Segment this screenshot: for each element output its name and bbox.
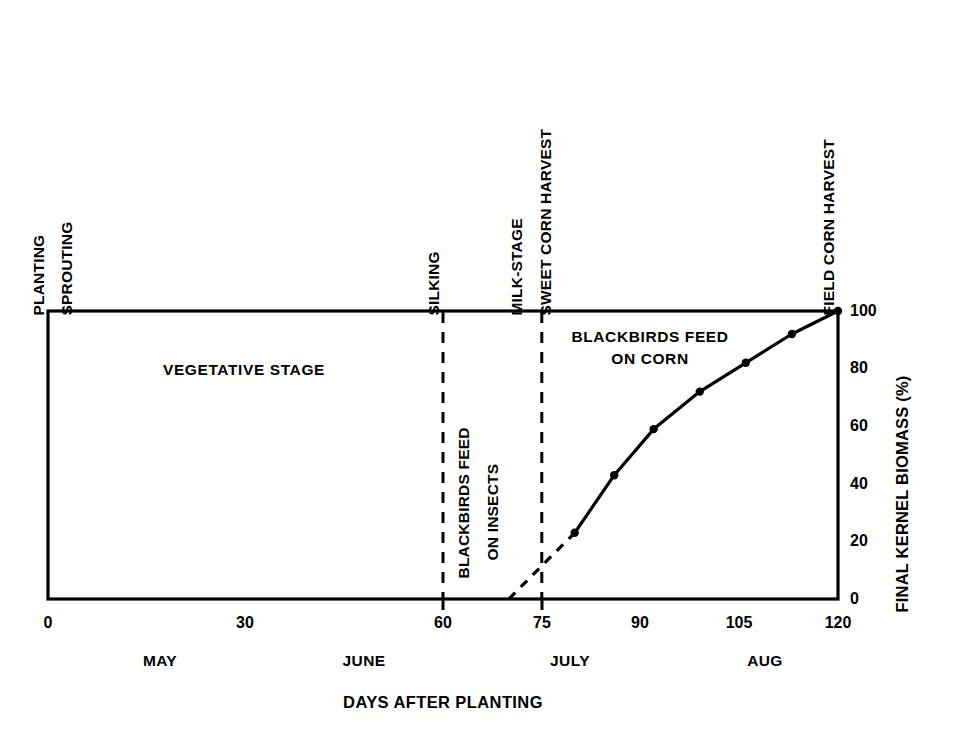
y-tick-label-100: 100 xyxy=(850,303,877,319)
top-label-milk-stage: MILK-STAGE xyxy=(509,218,525,315)
x-tick-label-120: 120 xyxy=(825,615,852,631)
month-label-may: MAY xyxy=(143,652,177,670)
x-tick-label-105: 105 xyxy=(726,615,753,631)
data-point xyxy=(650,425,658,433)
x-tick-label-75: 75 xyxy=(533,615,551,631)
x-tick-label-90: 90 xyxy=(631,615,649,631)
y-tick-label-80: 80 xyxy=(850,360,868,376)
y-axis-title: FINAL KERNEL BIOMASS (%) xyxy=(894,375,911,612)
month-label-june: JUNE xyxy=(343,652,386,670)
y-tick-label-20: 20 xyxy=(850,533,868,549)
y-tick-label-60: 60 xyxy=(850,418,868,434)
top-label-sprouting: SPROUTING xyxy=(59,222,75,316)
region-label-blackbirds-feed-corn-line1: BLACKBIRDS FEED xyxy=(571,327,728,348)
top-label-silking: SILKING xyxy=(426,251,442,315)
data-point xyxy=(788,330,796,338)
x-tick-label-0: 0 xyxy=(44,615,53,631)
data-point xyxy=(571,529,579,537)
top-label-field-corn-harvest: FIELD CORN HARVEST xyxy=(821,139,837,315)
region-label-blackbirds-feed-corn-line2: ON CORN xyxy=(611,349,688,370)
x-tick-label-30: 30 xyxy=(236,615,254,631)
top-label-sweet-corn-harvest: SWEET CORN HARVEST xyxy=(538,129,554,316)
x-axis-title: DAYS AFTER PLANTING xyxy=(343,693,543,712)
month-label-aug: AUG xyxy=(747,652,783,670)
data-point xyxy=(696,387,704,395)
x-tick-label-60: 60 xyxy=(434,615,452,631)
chart-figure: PLANTING SPROUTING SILKING MILK-STAGE SW… xyxy=(0,0,956,741)
data-point xyxy=(610,471,618,479)
data-point xyxy=(742,359,750,367)
region-label-blackbirds-feed-insects-line1: BLACKBIRDS FEED xyxy=(456,427,472,578)
chart-canvas xyxy=(0,0,956,741)
top-label-planting: PLANTING xyxy=(31,235,47,316)
region-label-blackbirds-feed-insects-line2: ON INSECTS xyxy=(485,464,501,561)
y-tick-label-40: 40 xyxy=(850,476,868,492)
region-label-vegetative-stage: VEGETATIVE STAGE xyxy=(163,360,325,381)
month-label-july: JULY xyxy=(550,652,590,670)
y-tick-label-0: 0 xyxy=(850,591,859,607)
